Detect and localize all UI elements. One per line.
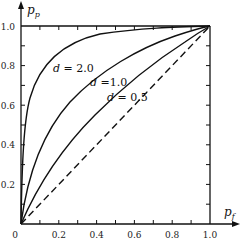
- x-tick-label: 0.8: [165, 230, 180, 240]
- origin-label: 0: [12, 230, 18, 240]
- x-axis-arrow-icon: [232, 221, 240, 227]
- x-tick-label: 0.4: [89, 230, 104, 240]
- roc-chart: 0 0.2 0.4 0.6 0.8 1.0 0.2 0.4 0.6 0.8 1.…: [0, 0, 242, 247]
- x-tick-label: 1.0: [203, 230, 218, 240]
- y-axis-arrow-icon: [18, 1, 24, 9]
- y-tick-label: 1.0: [1, 22, 16, 32]
- y-tick-label: 0.8: [1, 61, 16, 71]
- x-tick-label: 0.2: [52, 230, 66, 240]
- y-axis-title: pp: [27, 3, 40, 19]
- x-axis-title: pf: [224, 205, 237, 221]
- x-tick-label: 0.6: [127, 230, 142, 240]
- curve-label-d1: d =1.0: [90, 76, 127, 89]
- y-tick-label: 0.2: [1, 180, 15, 190]
- curve-label-d05: d = 0.5: [107, 91, 148, 104]
- y-tick-label: 0.4: [1, 140, 16, 150]
- curves: [21, 26, 210, 224]
- curve-label-d2: d = 2.0: [53, 62, 94, 75]
- y-tick-label: 0.6: [1, 101, 16, 111]
- chance-line: [21, 26, 210, 224]
